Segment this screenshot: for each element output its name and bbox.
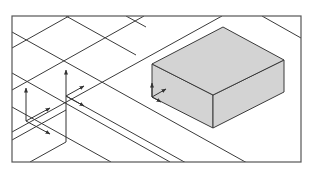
node-b-x-axis-arrow-icon	[26, 108, 50, 121]
isometric-figure	[0, 0, 313, 175]
grid-line	[12, 16, 69, 48]
grid-line	[126, 16, 146, 27]
grid-line	[262, 16, 301, 38]
grid-line	[12, 73, 170, 162]
node-a-x-axis-arrow-icon	[66, 86, 84, 96]
grid-line	[30, 142, 66, 162]
grid-line	[12, 107, 111, 162]
box-solid	[152, 27, 284, 128]
grid-line	[66, 16, 136, 55]
grid-line	[12, 16, 144, 90]
isometric-drawing	[0, 0, 313, 175]
node-b-y-axis-arrow-icon	[26, 121, 50, 134]
